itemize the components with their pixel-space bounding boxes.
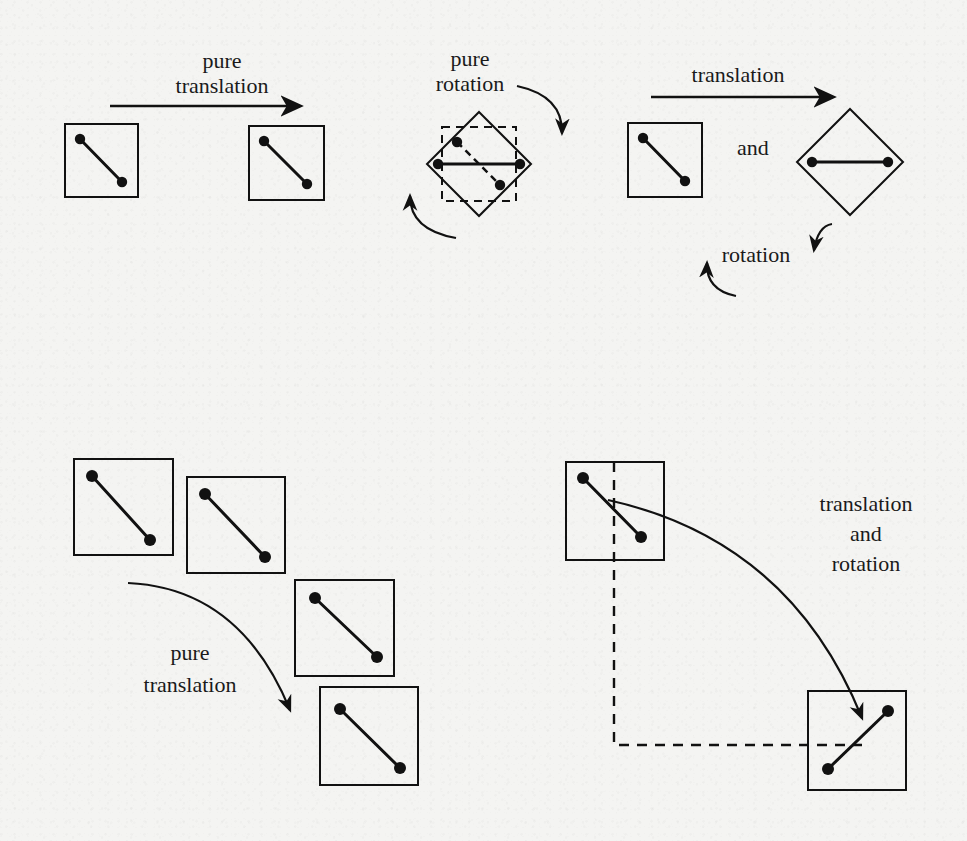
label-pure-translation-line2: translation [144,672,237,697]
body-node-a [75,134,85,144]
body-segment [264,141,307,184]
label-pure-rotation-line2: rotation [436,71,504,96]
body-node-b [680,176,690,186]
body-node-a [199,488,211,500]
body-node-a [259,136,269,146]
body-node-b [259,551,271,563]
square-step-2 [187,477,285,573]
square-step-1 [74,459,173,555]
panel-translation-and-rotation-top: translation and rotation [628,62,903,296]
body-segment [205,494,265,557]
body-node-b [882,705,894,717]
body-segment [643,138,685,181]
body-node-b [371,651,383,663]
body-segment [80,139,122,182]
square-end [249,126,324,200]
diagram-canvas: pure translation pure rotation [0,0,967,841]
panel-translation-and-rotation-bottom: translation and rotation [566,462,912,790]
label-and: and [737,135,769,160]
body-segment [315,598,377,657]
body-node-a [638,133,648,143]
body-node-b [302,179,312,189]
label-rotation: rotation [832,551,900,576]
body-node-a [334,703,346,715]
diamond-end [797,109,903,215]
body-segment [828,711,888,769]
panel-pure-translation-top: pure translation [65,48,324,200]
label-and: and [850,521,882,546]
label-pure-translation-line2: translation [176,73,269,98]
label-pure-translation-line1: pure [202,48,241,73]
label-translation: translation [692,62,785,87]
rotation-arrow-counterclockwise-icon [707,263,736,296]
body-node-b [117,177,127,187]
motion-path-arrow-icon [608,500,862,718]
body-segment [92,476,150,540]
panel-pure-translation-bottom: pure translation [74,459,418,785]
body-node-b [144,534,156,546]
body-segment [583,478,641,537]
body-segment [340,709,400,768]
body-node-b [635,531,647,543]
label-translation: translation [820,491,913,516]
square-step-4 [320,687,418,785]
body-node-b [515,159,525,169]
body-node-b [495,180,505,190]
rotation-arrow-clockwise-icon [517,86,562,133]
rotation-arrow-clockwise-icon [814,224,832,250]
square-start [65,124,138,197]
body-node-a [822,763,834,775]
body-node-b [394,762,406,774]
body-node-a [577,472,589,484]
label-rotation: rotation [722,242,790,267]
figure-page: pure translation pure rotation [0,0,967,841]
label-pure-rotation-line1: pure [450,46,489,71]
label-pure-translation-line1: pure [170,640,209,665]
body-node-a [807,157,817,167]
body-node-b [883,157,893,167]
body-node-a [86,470,98,482]
body-node-a [309,592,321,604]
body-node-a [433,159,443,169]
square-start [628,123,702,197]
square-step-3 [295,580,394,676]
rotation-arrow-counterclockwise-icon [410,196,456,238]
panel-pure-rotation-top: pure rotation [410,46,562,238]
